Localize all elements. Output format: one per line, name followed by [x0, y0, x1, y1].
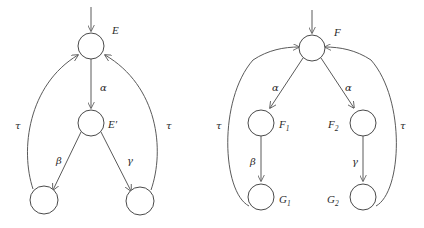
edge-label-alpha-right-1: α	[272, 82, 279, 93]
node-G2[interactable]	[350, 184, 376, 210]
node-label-G2-base: G	[327, 193, 335, 205]
edge-label-alpha-right-2: α	[345, 82, 352, 93]
edge-label-tau-left-outer: τ	[15, 120, 21, 131]
node-right-bottom[interactable]	[126, 187, 154, 215]
node-label-E-prime: E′	[107, 118, 118, 130]
node-left-bottom[interactable]	[30, 186, 58, 214]
node-E[interactable]	[78, 33, 104, 59]
node-label-E: E	[111, 24, 119, 36]
edge-label-beta-left: β	[55, 155, 62, 166]
node-label-F2-subscript: 2	[335, 124, 339, 133]
node-label-F1-subscript: 1	[286, 124, 290, 133]
node-F2[interactable]	[350, 110, 376, 136]
left-diagram: E E′ α β γ τ τ	[15, 7, 172, 215]
node-label-G1: G1	[279, 193, 291, 208]
edge-label-gamma-left: γ	[127, 155, 133, 166]
node-label-F1: F1	[278, 118, 289, 133]
transition-system-diagram: E E′ α β γ τ τ	[0, 0, 424, 228]
edge-label-beta-right: β	[249, 156, 256, 167]
node-label-E-prime-mark: ′	[115, 118, 118, 130]
node-F[interactable]	[299, 35, 325, 61]
right-diagram: F F1 F2 G1 G2 α α β γ τ τ	[216, 10, 406, 210]
node-F1[interactable]	[248, 110, 274, 136]
node-label-F: F	[333, 26, 341, 38]
node-label-G1-subscript: 1	[287, 199, 291, 208]
figure-container: E E′ α β γ τ τ	[0, 0, 424, 228]
node-G1[interactable]	[248, 184, 274, 210]
node-label-F2: F2	[327, 118, 339, 133]
edge-label-alpha-left: α	[100, 82, 107, 93]
edge-label-tau-left-inner: τ	[166, 120, 172, 131]
node-label-G2: G2	[327, 193, 339, 208]
node-E-prime[interactable]	[78, 110, 104, 136]
node-label-G2-subscript: 2	[335, 199, 339, 208]
node-label-G1-base: G	[279, 193, 287, 205]
edge-label-tau-right-outer-right: τ	[400, 120, 406, 131]
edge-label-gamma-right: γ	[352, 156, 358, 167]
edge-bottom-left-to-E	[27, 55, 78, 189]
edge-label-tau-right-outer-left: τ	[216, 120, 222, 131]
